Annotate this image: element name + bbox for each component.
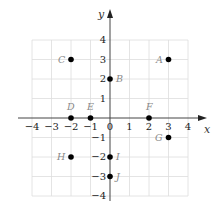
y-axis-label: y [97,8,105,21]
y-tick-label: −2 [91,151,106,162]
point-label-f: F [145,101,153,112]
x-tick-label: −1 [83,121,98,132]
x-tick-label: −3 [44,121,59,132]
point-label-c: C [58,54,66,65]
axes [18,16,200,201]
point-e [88,115,94,121]
point-label-i: I [115,151,120,162]
point-label-b: B [115,73,123,84]
point-g [166,135,172,141]
x-tick-label: 3 [165,121,171,132]
point-c [68,57,74,63]
point-b [107,76,113,82]
point-label-e: E [86,101,94,112]
point-i [107,154,113,160]
y-tick-label: −3 [91,171,106,182]
x-tick-label: 1 [126,121,132,132]
point-h [68,154,74,160]
x-tick-label: 4 [185,121,191,132]
y-tick-label: 3 [100,54,106,65]
point-label-a: A [155,54,163,65]
point-f [146,115,152,121]
point-label-h: H [56,151,66,162]
point-d [68,115,74,121]
x-tick-label: 2 [146,121,152,132]
x-tick-label: −4 [25,121,40,132]
y-tick-label: −1 [91,132,106,143]
x-tick-labels: −4 −3 −2 −1 0 1 2 3 4 [25,121,192,132]
y-tick-label: 1 [100,93,106,104]
point-j [107,174,113,180]
y-tick-label: 2 [100,73,106,84]
point-label-g: G [155,132,163,143]
x-axis-label: x [204,123,211,136]
y-tick-label: 4 [100,34,106,45]
y-axis-arrow-icon [107,9,113,18]
origin-label: 0 [107,121,113,132]
point-a [166,57,172,63]
x-axis-arrow-icon [198,115,207,121]
x-tick-label: −2 [64,121,79,132]
coordinate-plane: x y −4 −3 −2 −1 0 1 2 3 4 4 3 2 1 −1 −2 … [0,0,222,203]
y-tick-label: −4 [91,190,106,201]
point-label-d: D [66,101,75,112]
